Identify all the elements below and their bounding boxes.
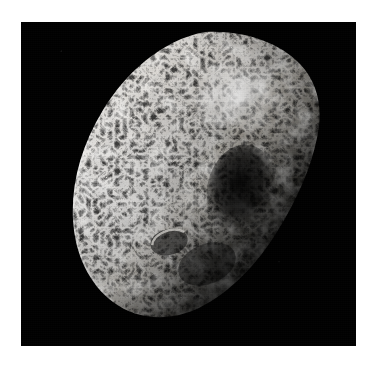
shadowed-terminator-east [57,28,323,322]
moon-render [57,28,323,322]
image-canvas [0,0,380,366]
moon-surface [57,28,323,322]
hyperion-moon [57,28,323,322]
photo-frame [21,22,356,346]
